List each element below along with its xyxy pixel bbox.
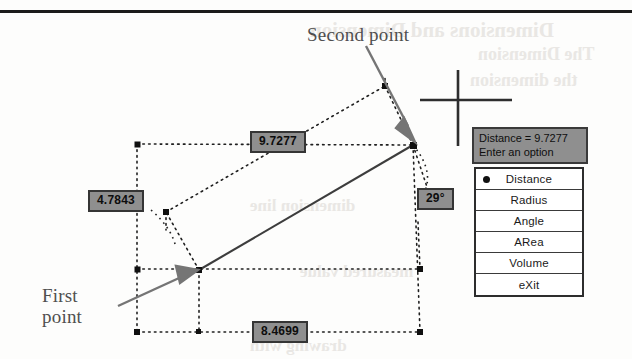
menu-item-label: ARea bbox=[514, 236, 544, 248]
annotation-first-point-line-1: First bbox=[42, 285, 82, 306]
menu-item-label: Angle bbox=[514, 215, 544, 227]
option-menu[interactable]: Distance Radius Angle ARea Volume eXit bbox=[474, 167, 584, 297]
measured-distance-line bbox=[199, 145, 413, 270]
leader-arrowhead-second-point bbox=[396, 118, 415, 142]
dimension-label-bottom: 8.4699 bbox=[252, 321, 308, 343]
node-ext-right-bottom bbox=[417, 266, 423, 272]
node-dim-bottom-right bbox=[417, 329, 423, 335]
annotation-first-point-line-2: point bbox=[42, 306, 82, 327]
menu-item-volume[interactable]: Volume bbox=[476, 253, 582, 274]
menu-item-angle[interactable]: Angle bbox=[476, 211, 582, 232]
menu-item-label: Distance bbox=[506, 173, 552, 185]
leader-arrows bbox=[118, 46, 415, 306]
screenshot-page: Dimensions and Dimension The Dimension t… bbox=[0, 0, 632, 359]
selected-bullet-icon bbox=[483, 176, 490, 183]
menu-item-label: eXit bbox=[519, 279, 540, 291]
corner-arc-left bbox=[151, 210, 176, 248]
dimension-label-angle: 29° bbox=[417, 188, 454, 210]
node-first-point-projection bbox=[196, 329, 201, 334]
dimension-label-top: 9.7277 bbox=[250, 131, 306, 153]
menu-item-radius[interactable]: Radius bbox=[476, 190, 582, 211]
menu-item-label: Volume bbox=[509, 257, 549, 269]
annotation-first-point: First point bbox=[42, 285, 82, 327]
tooltip-distance-readout: Distance = 9.7277 bbox=[479, 131, 582, 145]
command-tooltip: Distance = 9.7277 Enter an option bbox=[472, 127, 588, 164]
menu-item-area[interactable]: ARea bbox=[476, 232, 582, 253]
leader-arrowhead-first-point bbox=[176, 266, 198, 283]
menu-item-label: Radius bbox=[511, 194, 548, 206]
extension-line-vertical-right bbox=[413, 145, 420, 332]
node-rect-corner-left bbox=[163, 209, 169, 215]
node-ext-left-bottom bbox=[135, 267, 141, 273]
dimension-label-left: 4.7843 bbox=[88, 190, 144, 212]
menu-item-distance[interactable]: Distance bbox=[476, 169, 582, 190]
angle-leader-lower bbox=[418, 222, 420, 269]
annotation-second-point: Second point bbox=[307, 24, 409, 46]
node-dim-bottom-left bbox=[134, 329, 140, 335]
tooltip-prompt: Enter an option bbox=[479, 145, 582, 159]
node-ext-left-top bbox=[135, 142, 141, 148]
menu-item-exit[interactable]: eXit bbox=[476, 274, 582, 295]
rect-edge-left-lower bbox=[166, 212, 199, 270]
construction-lines bbox=[137, 78, 430, 332]
node-markers bbox=[134, 83, 423, 335]
leader-line-second-point bbox=[366, 46, 408, 126]
